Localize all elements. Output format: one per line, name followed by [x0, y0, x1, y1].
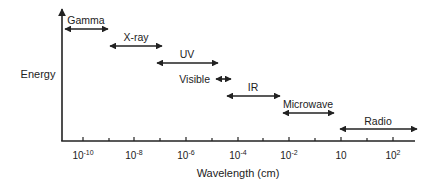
x-tick-label: 10-10 [72, 149, 93, 161]
diagram-canvas: Energy 10-10 10-8 [0, 0, 439, 188]
y-axis: Energy [21, 9, 62, 141]
x-axis: 10-10 10-8 10-6 10-4 10-2 10 102 Wavelen… [61, 137, 415, 179]
band-label: Radio [364, 115, 392, 127]
band-gamma: Gamma [65, 14, 108, 29]
y-axis-label: Energy [21, 68, 56, 80]
band-label: IR [248, 81, 259, 93]
x-tick-label: 102 [385, 149, 400, 161]
band-radio: Radio [340, 115, 417, 129]
band-label: UV [180, 48, 195, 60]
x-tick-label: 10-6 [177, 149, 194, 161]
band-label: Microwave [283, 98, 333, 110]
band-visible: Visible [179, 73, 231, 85]
band-ir: IR [227, 81, 280, 96]
em-spectrum-diagram: Energy 10-10 10-8 [0, 0, 439, 188]
x-tick-label: 10-4 [229, 149, 246, 161]
band-uv: UV [157, 48, 218, 63]
x-axis-label: Wavelength (cm) [197, 167, 280, 179]
x-tick-label: 10-2 [280, 149, 297, 161]
band-xray: X-ray [110, 31, 162, 46]
band-label: X-ray [123, 31, 149, 43]
band-label: Visible [179, 73, 210, 85]
x-tick-label: 10-8 [125, 149, 142, 161]
x-tick-label: 10 [335, 150, 347, 161]
band-microwave: Microwave [283, 98, 334, 113]
band-label: Gamma [67, 14, 105, 26]
